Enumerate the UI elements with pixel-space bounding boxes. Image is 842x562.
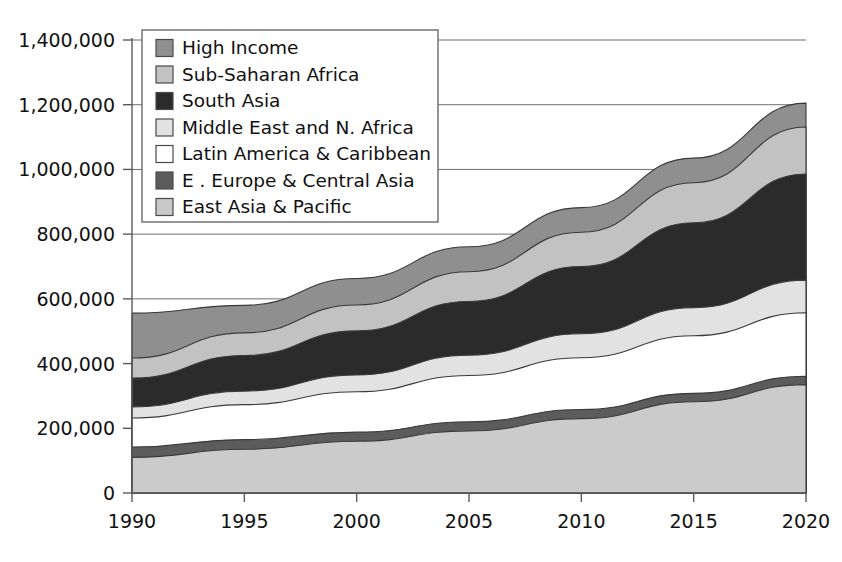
x-tick-label: 2015	[669, 510, 717, 532]
legend-label: High Income	[182, 37, 298, 58]
x-tick-label: 1990	[108, 510, 156, 532]
legend-label: Sub-Saharan Africa	[182, 64, 359, 85]
legend-swatch	[156, 40, 173, 57]
chart-legend: High IncomeSub-Saharan AfricaSouth AsiaM…	[142, 30, 438, 222]
legend-label: Middle East and N. Africa	[182, 117, 414, 138]
x-tick-label: 2020	[782, 510, 830, 532]
y-tick-label: 400,000	[36, 353, 115, 375]
y-tick-label: 1,200,000	[18, 94, 115, 116]
y-tick-label: 600,000	[36, 288, 115, 310]
y-tick-label: 200,000	[36, 417, 115, 439]
y-tick-label: 1,000,000	[18, 158, 115, 180]
legend-swatch	[156, 146, 173, 163]
chart-canvas: 0200,000400,000600,000800,0001,000,0001,…	[0, 0, 842, 562]
y-tick-label: 1,400,000	[18, 29, 115, 51]
legend-label: E . Europe & Central Asia	[182, 170, 415, 191]
x-tick-label: 2000	[332, 510, 380, 532]
x-tick-label: 2010	[557, 510, 605, 532]
y-tick-label: 0	[103, 482, 115, 504]
x-tick-label: 1995	[220, 510, 268, 532]
y-tick-label: 800,000	[36, 223, 115, 245]
legend-label: Latin America & Caribbean	[182, 143, 431, 164]
legend-swatch	[156, 66, 173, 83]
legend-swatch	[156, 172, 173, 189]
legend-label: South Asia	[182, 90, 280, 111]
legend-label: East Asia & Pacific	[182, 196, 352, 217]
stacked-area-chart: 0200,000400,000600,000800,0001,000,0001,…	[0, 0, 842, 562]
x-tick-label: 2005	[445, 510, 493, 532]
y-axis-ticks: 0200,000400,000600,000800,0001,000,0001,…	[18, 29, 132, 504]
legend-swatch	[156, 199, 173, 216]
x-axis-ticks: 1990199520002005201020152020	[108, 493, 830, 532]
legend-swatch	[156, 119, 173, 136]
legend-swatch	[156, 93, 173, 110]
